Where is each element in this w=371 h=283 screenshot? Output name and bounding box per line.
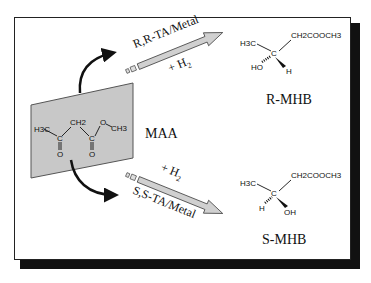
- r-mhb-label: R-MHB: [266, 92, 312, 108]
- s-mhb-center: C: [271, 189, 277, 198]
- s-mhb-dash-group: H: [259, 204, 265, 213]
- s-mhb-h3c: H3C: [240, 179, 256, 188]
- maa-o2: O: [89, 150, 95, 159]
- s-mhb-wedge-group: OH: [284, 208, 296, 217]
- maa-o1: O: [57, 150, 63, 159]
- r-mhb-center: C: [271, 49, 277, 58]
- curved-arrow-up: [80, 53, 112, 93]
- s-mhb-chain: CH2COOCH3: [291, 171, 341, 180]
- r-mhb-h3c: H3C: [240, 39, 256, 48]
- maa-ch2: CH2: [70, 118, 86, 127]
- reaction-scheme: [0, 0, 371, 283]
- maa-ch3: CH3: [111, 124, 127, 133]
- maa-c2: C: [89, 134, 95, 143]
- r-mhb-wedge: [275, 57, 286, 68]
- maa-label: MAA: [145, 126, 178, 142]
- s-mhb-wedge: [276, 197, 288, 208]
- maa-h3c: H3C: [34, 125, 50, 134]
- r-mhb-wedge-group: H: [286, 67, 292, 76]
- maa-c1: C: [57, 134, 63, 143]
- maa-o-ester: O: [100, 118, 106, 127]
- s-mhb-label: S-MHB: [262, 232, 306, 248]
- r-mhb-dash-group: HO: [251, 63, 263, 72]
- r-mhb-chain: CH2COOCH3: [291, 31, 341, 40]
